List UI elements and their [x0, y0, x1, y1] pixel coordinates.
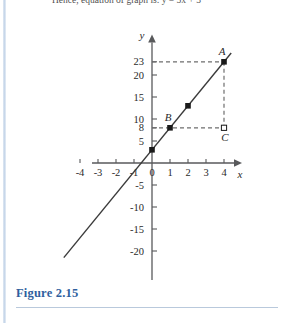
- graph-figure: -4-3-2-101234-20-15-10-55810152023 BAC x…: [0, 12, 286, 280]
- plotted-line-group: [64, 53, 231, 258]
- point-label-b: B: [165, 111, 172, 123]
- x-tick-label: -2: [112, 167, 121, 178]
- axes-group: [92, 35, 242, 280]
- x-axis-arrow-icon: [234, 159, 242, 167]
- data-point-marker: [149, 147, 155, 153]
- data-point-marker: [185, 103, 191, 109]
- y-tick-label: 20: [134, 70, 145, 81]
- point-label-a: A: [218, 45, 226, 57]
- x-tick-label: 0: [149, 167, 154, 178]
- y-tick-label: -20: [130, 246, 144, 257]
- y-axis-label: y: [139, 29, 145, 41]
- guide-lines-group: [152, 62, 224, 128]
- point-label-c: C: [221, 131, 229, 143]
- y-tick-label: -15: [130, 224, 144, 235]
- y-tick-label: 23: [134, 56, 145, 67]
- x-tick-label: 3: [203, 167, 208, 178]
- y-tick-label: 5: [139, 136, 144, 147]
- data-point-marker: [221, 125, 226, 130]
- data-point-marker: [221, 59, 227, 65]
- x-tick-label: 4: [221, 167, 227, 178]
- graph-line: [64, 53, 231, 258]
- y-axis-arrow-icon: [148, 35, 156, 43]
- y-tick-label: 10: [134, 114, 145, 125]
- y-tick-label: -5: [135, 180, 144, 191]
- figure-number-label: Figure 2.15: [16, 286, 78, 301]
- y-tick-label: 15: [134, 92, 145, 103]
- x-tick-label: -4: [76, 167, 85, 178]
- x-tick-label: -3: [94, 167, 103, 178]
- x-axis-label: x: [237, 168, 243, 180]
- coordinate-plane: -4-3-2-101234-20-15-10-55810152023 BAC x…: [0, 12, 286, 280]
- x-tick-label: 2: [185, 167, 190, 178]
- caption-divider: [16, 307, 278, 308]
- data-point-marker: [167, 125, 173, 131]
- data-points-group: BAC: [149, 45, 229, 153]
- figure-caption: Figure 2.15: [0, 286, 286, 323]
- y-tick-label: -10: [130, 202, 144, 213]
- equation-text: Hence, equation of graph is: y = 5x + 3: [52, 0, 262, 5]
- x-tick-label: 1: [167, 167, 172, 178]
